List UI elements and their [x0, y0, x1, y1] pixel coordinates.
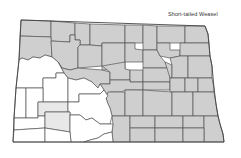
- county-distribution-map: [0, 0, 241, 158]
- county-mcintosh: [130, 128, 155, 142]
- county-walsh: [180, 43, 210, 56]
- county-griggs: [170, 78, 185, 92]
- county-pierce: [125, 43, 143, 62]
- county-divide: [20, 20, 51, 37]
- county-bowman: [13, 128, 45, 142]
- county-kidder: [125, 90, 143, 116]
- county-richland: [204, 116, 224, 142]
- county-logan: [130, 116, 155, 128]
- county-ransom: [183, 116, 204, 128]
- county-dickey: [155, 128, 183, 142]
- county-rolette: [125, 25, 143, 43]
- county-sargent: [183, 128, 204, 142]
- county-sheridan: [130, 70, 143, 82]
- county-pembina: [185, 26, 209, 43]
- county-steele: [185, 78, 198, 92]
- county-barnes: [172, 92, 193, 116]
- county-wells: [143, 68, 170, 82]
- county-ramsey: [157, 43, 180, 58]
- county-cass: [193, 92, 218, 116]
- county-traill: [198, 78, 214, 92]
- county-slope: [14, 116, 45, 130]
- county-emmons: [112, 116, 130, 142]
- county-nelson: [170, 56, 188, 78]
- county-stutsman: [143, 90, 172, 116]
- county-ward: [78, 45, 102, 68]
- county-cavalier: [157, 26, 185, 43]
- county-foster: [143, 82, 170, 90]
- county-grand-forks: [188, 56, 212, 78]
- county-towner: [143, 25, 157, 50]
- county-lamoure: [155, 116, 183, 128]
